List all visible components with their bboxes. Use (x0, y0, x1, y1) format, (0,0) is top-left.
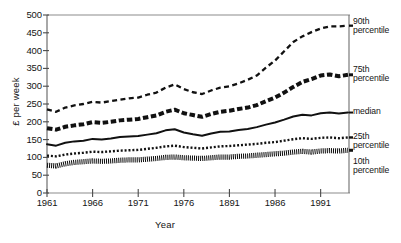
plot-area (0, 0, 401, 243)
series-label-25th: 25th percentile (353, 132, 389, 150)
series-label-10th: 10th percentile (353, 157, 389, 175)
series-label-90th: 90th percentile (353, 17, 389, 35)
series-line-10th-percentile (47, 150, 348, 166)
series-label-75th: 75th percentile (353, 65, 389, 83)
series-line-90th-percentile (47, 26, 348, 112)
chart-figure: £ per week 05010015020025030035040045050… (0, 0, 401, 243)
series-line-75th-percentile (47, 74, 348, 129)
series-label-median: median (353, 107, 381, 116)
